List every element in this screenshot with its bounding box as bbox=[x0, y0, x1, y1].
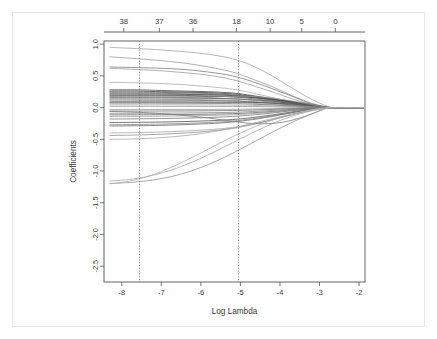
y-tick-label: 0.0 bbox=[92, 102, 101, 112]
x-tick-label: -5 bbox=[237, 288, 244, 297]
y-axis-title: Coefficients bbox=[69, 140, 78, 183]
figure-card: -8-7-6-5-4-3-21.00.50.0-0.5-1.0-1.5-2.0-… bbox=[12, 12, 425, 327]
coefficient-paths-group bbox=[110, 47, 363, 183]
top-axis-label: 18 bbox=[232, 17, 241, 26]
top-axis-label: 0 bbox=[333, 17, 338, 26]
x-tick-label: -2 bbox=[356, 288, 363, 297]
top-axis-label: 38 bbox=[119, 17, 128, 26]
top-axis-label: 5 bbox=[300, 17, 305, 26]
y-tick-label: 0.5 bbox=[92, 71, 101, 81]
x-tick-label: -3 bbox=[316, 288, 323, 297]
plot-frame bbox=[104, 41, 365, 282]
lasso-path-plot: -8-7-6-5-4-3-21.00.50.0-0.5-1.0-1.5-2.0-… bbox=[13, 13, 426, 328]
y-tick-label: -1.5 bbox=[92, 196, 101, 209]
x-tick-label: -6 bbox=[198, 288, 205, 297]
y-tick-label: -0.5 bbox=[92, 133, 101, 146]
x-axis-title: Log Lambda bbox=[212, 307, 258, 316]
lambda-guide-lines-group bbox=[140, 41, 239, 282]
x-tick-label: -8 bbox=[119, 288, 126, 297]
x-tick-label: -4 bbox=[277, 288, 284, 297]
x-tick-label: -7 bbox=[158, 288, 165, 297]
y-tick-label: 1.0 bbox=[92, 39, 101, 49]
coefficient-path bbox=[110, 107, 363, 123]
y-tick-label: -1.0 bbox=[92, 165, 101, 178]
y-tick-label: -2.0 bbox=[92, 228, 101, 241]
top-axis-label: 10 bbox=[266, 17, 275, 26]
top-axis-label: 37 bbox=[155, 17, 164, 26]
axis-labels-group: -8-7-6-5-4-3-21.00.50.0-0.5-1.0-1.5-2.0-… bbox=[69, 17, 363, 316]
y-tick-label: -2.5 bbox=[92, 260, 101, 273]
top-axis-label: 36 bbox=[189, 17, 198, 26]
